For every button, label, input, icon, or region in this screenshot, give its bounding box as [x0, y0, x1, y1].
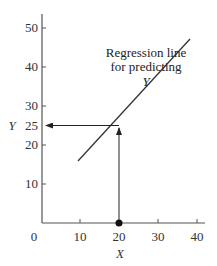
x-tick-label-20: 20 [113, 229, 126, 244]
y-tick-label-20: 20 [25, 137, 38, 152]
x-tick-label-30: 30 [152, 229, 165, 244]
x-tick-label-10: 10 [74, 229, 87, 244]
x-tick-label-40: 40 [191, 229, 204, 244]
y-tick-label-40: 40 [25, 59, 38, 74]
annotation-line-3: Y [142, 74, 151, 89]
annotation-line-2: for predicting [110, 59, 182, 74]
regression-chart: 50 40 30 25 20 10 Y 0 10 20 30 40 X Regr… [0, 0, 217, 266]
y-tick-label-10: 10 [25, 176, 38, 191]
y-tick-label-50: 50 [25, 20, 38, 35]
x-tick-label-0: 0 [31, 229, 38, 244]
y-axis-label: Y [8, 118, 17, 133]
annotation-line-1: Regression line [106, 45, 187, 60]
y-tick-label-25: 25 [25, 118, 38, 133]
x-value-point [116, 220, 123, 227]
y-tick-label-30: 30 [25, 98, 38, 113]
x-axis-label: X [115, 246, 125, 261]
